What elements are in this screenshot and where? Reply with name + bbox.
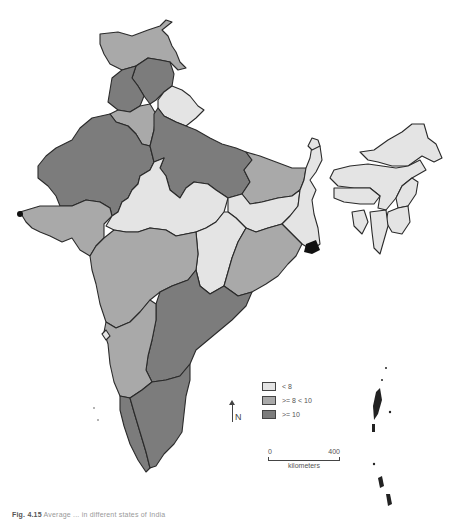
lakshadweep-islands — [93, 407, 99, 421]
region-meghalaya — [334, 188, 380, 204]
scale-bar: 0 400 kilometers — [268, 448, 340, 469]
legend-label: >= 10 — [282, 411, 300, 418]
legend-swatch-mid — [262, 396, 276, 405]
north-arrow: N — [232, 404, 242, 422]
north-arrow-icon — [232, 404, 233, 422]
legend-item-low: < 8 — [262, 380, 312, 392]
scale-bar-line — [268, 457, 340, 461]
north-label: N — [235, 412, 242, 422]
region-tripura — [352, 210, 368, 234]
legend-label: >= 8 < 10 — [282, 397, 312, 404]
legend-item-high: >= 10 — [262, 408, 312, 420]
map-legend: < 8 >= 8 < 10 >= 10 — [262, 380, 312, 422]
legend-swatch-low — [262, 382, 276, 391]
legend-swatch-high — [262, 410, 276, 419]
kutch-mark — [17, 211, 23, 217]
figure-caption: Fig. 4.15 Average ... in different state… — [12, 511, 165, 518]
region-mizoram — [370, 210, 388, 254]
legend-item-mid: >= 8 < 10 — [262, 394, 312, 406]
region-manipur — [386, 206, 410, 234]
region-arunachal-pradesh — [360, 124, 442, 166]
legend-label: < 8 — [282, 383, 292, 390]
andaman-nicobar-islands — [372, 367, 392, 506]
scale-unit: kilometers — [268, 462, 340, 469]
india-choropleth-map — [0, 0, 460, 510]
caption-label: Fig. 4.15 — [12, 511, 42, 518]
scale-end: 400 — [328, 448, 340, 455]
scale-start: 0 — [268, 448, 272, 455]
caption-text: Average ... in different states of India — [44, 511, 166, 518]
